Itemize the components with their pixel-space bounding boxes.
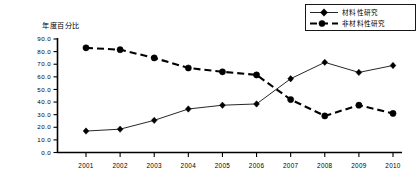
legend-label-non-material: 非材料性研究 bbox=[342, 19, 386, 28]
x-axis-tick-labels: 2001200220032004200520062007200820092010 bbox=[78, 162, 401, 169]
y-axis-title: 年度百分比 bbox=[42, 21, 80, 30]
chart-legend: 材料性研究 非材料性研究 bbox=[306, 5, 416, 31]
series-markers-material bbox=[83, 59, 396, 134]
x-tick-label: 2004 bbox=[181, 162, 197, 169]
data-point bbox=[322, 113, 328, 119]
data-point bbox=[83, 45, 89, 51]
data-point bbox=[220, 102, 226, 108]
y-tick-label: 0.0 bbox=[41, 149, 51, 156]
legend-marker-circle-icon bbox=[319, 20, 325, 26]
data-point bbox=[288, 76, 294, 82]
y-tick-label: 70.0 bbox=[37, 60, 51, 67]
data-point bbox=[185, 106, 191, 112]
y-tick-label: 60.0 bbox=[37, 73, 51, 80]
x-tick-label: 2008 bbox=[317, 162, 333, 169]
y-tick-label: 20.0 bbox=[37, 123, 51, 130]
data-point bbox=[151, 55, 157, 61]
x-tick-label: 2010 bbox=[385, 162, 401, 169]
y-tick-label: 10.0 bbox=[37, 136, 51, 143]
data-point bbox=[151, 117, 157, 123]
x-tick-label: 2009 bbox=[351, 162, 367, 169]
data-point bbox=[390, 62, 396, 68]
data-point bbox=[254, 101, 260, 107]
x-tick-label: 2007 bbox=[283, 162, 299, 169]
y-axis-tick-labels: 90.080.070.060.050.040.030.020.010.00.0 bbox=[37, 35, 51, 156]
y-tick-label: 80.0 bbox=[37, 48, 51, 55]
data-point bbox=[117, 47, 123, 53]
y-tick-label: 90.0 bbox=[37, 35, 51, 42]
y-tick-label: 50.0 bbox=[37, 86, 51, 93]
data-point bbox=[356, 69, 362, 75]
data-point bbox=[322, 59, 328, 65]
data-point bbox=[185, 65, 191, 71]
data-point bbox=[83, 128, 89, 134]
data-point bbox=[288, 96, 294, 102]
y-tick-label: 30.0 bbox=[37, 111, 51, 118]
series-line-non-material bbox=[86, 48, 393, 116]
data-point bbox=[356, 102, 362, 108]
x-tick-label: 2003 bbox=[147, 162, 163, 169]
line-chart-svg: 年度百分比 90.080.070.060.050.040.030.020.010… bbox=[0, 0, 420, 181]
x-tick-label: 2002 bbox=[112, 162, 128, 169]
data-point bbox=[390, 110, 396, 116]
data-point bbox=[117, 126, 123, 132]
legend-label-material: 材料性研究 bbox=[342, 8, 379, 17]
y-tick-label: 40.0 bbox=[37, 98, 51, 105]
x-tick-label: 2006 bbox=[249, 162, 265, 169]
data-point bbox=[219, 69, 225, 75]
data-point bbox=[253, 72, 259, 78]
x-tick-label: 2001 bbox=[78, 162, 94, 169]
chart-container: 年度百分比 90.080.070.060.050.040.030.020.010… bbox=[0, 0, 420, 181]
x-tick-label: 2005 bbox=[215, 162, 231, 169]
